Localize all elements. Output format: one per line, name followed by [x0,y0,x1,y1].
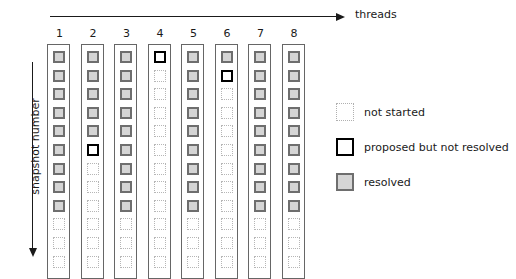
snapshot-cell-notstarted [120,256,132,268]
arrow-down-icon [29,248,37,257]
snapshot-cell-notstarted [221,181,233,193]
snapshot-cell-resolved [187,88,199,100]
snapshot-cell-notstarted [221,144,233,156]
thread-column-header: 7 [248,27,273,40]
thread-column-track [148,44,171,279]
snapshot-cell-resolved [254,200,266,212]
snapshot-cell-notstarted [254,218,266,230]
thread-column-header: 2 [81,27,106,40]
snapshot-cell-notstarted [254,256,266,268]
snapshot-cell-resolved [53,144,65,156]
legend-swatch-proposed [336,138,354,156]
snapshot-cell-resolved [120,163,132,175]
snapshot-cell-notstarted [154,200,166,212]
snapshot-axis-label: snapshot number [29,82,42,212]
snapshot-cell-resolved [120,51,132,63]
snapshot-cell-notstarted [154,70,166,82]
snapshot-cell-resolved [187,125,199,137]
thread-column-header: 6 [215,27,240,40]
thread-column-track [181,44,204,279]
snapshot-cell-resolved [254,181,266,193]
snapshot-cell-resolved [53,107,65,119]
snapshot-cell-notstarted [154,256,166,268]
snapshot-cell-resolved [288,144,300,156]
snapshot-cell-notstarted [221,200,233,212]
snapshot-cell-notstarted [53,256,65,268]
snapshot-cell-notstarted [87,200,99,212]
snapshot-cell-resolved [254,144,266,156]
snapshot-cell-resolved [288,125,300,137]
snapshot-cell-resolved [53,70,65,82]
snapshot-cell-proposed [154,51,166,63]
threads-axis-label: threads [355,8,397,21]
snapshot-cell-proposed [87,144,99,156]
snapshot-cell-notstarted [288,256,300,268]
snapshot-cell-notstarted [254,237,266,249]
snapshot-cell-resolved [187,181,199,193]
snapshot-cell-resolved [120,107,132,119]
snapshot-cell-notstarted [221,88,233,100]
thread-column-header: 4 [148,27,173,40]
snapshot-cell-notstarted [154,218,166,230]
thread-column-track [114,44,137,279]
snapshot-cell-notstarted [221,237,233,249]
snapshot-cell-resolved [288,181,300,193]
snapshot-cell-resolved [87,107,99,119]
snapshot-cell-resolved [254,70,266,82]
snapshot-cell-notstarted [288,218,300,230]
snapshot-cell-resolved [87,88,99,100]
thread-column-header: 1 [47,27,72,40]
snapshot-cell-resolved [288,107,300,119]
snapshot-cell-resolved [87,70,99,82]
thread-column-track [47,44,70,279]
snapshot-cell-notstarted [221,125,233,137]
snapshot-cell-notstarted [154,144,166,156]
snapshot-cell-resolved [53,51,65,63]
snapshot-cell-notstarted [221,163,233,175]
legend-label: proposed but not resolved [364,141,509,154]
thread-column-header: 3 [114,27,139,40]
snapshot-cell-notstarted [53,237,65,249]
snapshot-cell-notstarted [154,163,166,175]
snapshot-cell-resolved [187,51,199,63]
snapshot-cell-notstarted [187,218,199,230]
snapshot-cell-resolved [288,70,300,82]
snapshot-cell-resolved [254,51,266,63]
snapshot-cell-resolved [53,88,65,100]
snapshot-cell-notstarted [221,218,233,230]
snapshot-cell-resolved [53,200,65,212]
threads-axis-line [50,16,340,17]
snapshot-cell-resolved [53,181,65,193]
snapshot-cell-resolved [187,200,199,212]
snapshot-cell-resolved [288,88,300,100]
snapshot-cell-resolved [120,200,132,212]
thread-column-header: 8 [282,27,307,40]
snapshot-cell-notstarted [154,125,166,137]
snapshot-cell-resolved [288,51,300,63]
thread-column-header: 5 [181,27,206,40]
snapshot-cell-notstarted [154,237,166,249]
snapshot-cell-notstarted [87,218,99,230]
snapshot-cell-resolved [254,88,266,100]
snapshot-cell-resolved [120,181,132,193]
snapshot-cell-notstarted [154,88,166,100]
snapshot-cell-resolved [288,200,300,212]
snapshot-cell-notstarted [87,237,99,249]
snapshot-cell-notstarted [154,107,166,119]
threads-axis [50,16,350,18]
thread-column-track [248,44,271,279]
snapshot-cell-resolved [187,107,199,119]
snapshot-cell-resolved [120,88,132,100]
snapshot-cell-resolved [120,125,132,137]
thread-column-track [282,44,305,279]
snapshot-cell-notstarted [120,237,132,249]
snapshot-cell-notstarted [87,256,99,268]
snapshot-cell-resolved [288,163,300,175]
snapshot-cell-resolved [120,144,132,156]
snapshot-cell-notstarted [87,181,99,193]
snapshot-cell-resolved [221,51,233,63]
snapshot-cell-notstarted [221,107,233,119]
arrow-right-icon [336,13,345,21]
legend-swatch-resolved [336,173,354,191]
